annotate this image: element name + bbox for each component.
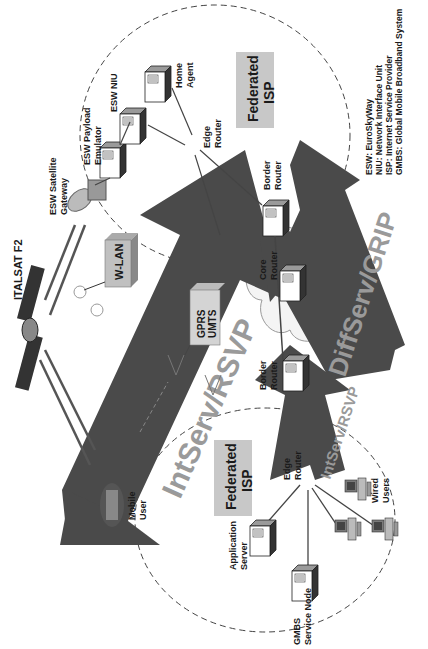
top-border-router-icon — [263, 200, 289, 236]
top-edge-router-label: Edge Router — [202, 119, 223, 148]
wlan-box: W-LAN — [105, 233, 138, 287]
svg-text:ESW: EuroSkyWay NIU: Net: ESW: EuroSkyWay NIU: Network Interface U… — [364, 8, 404, 175]
legend: ESW: EuroSkyWay NIU: Network Interface U… — [364, 8, 404, 175]
core-router-icon — [280, 265, 306, 301]
payload-emulator-label: ESW Payload Emulator — [82, 105, 103, 165]
wired-users-label: Wired Users — [370, 476, 391, 503]
home-agent-server-icon — [145, 66, 171, 102]
network-architecture-diagram: IntServ/RSVP DiffServ/GRIP IntServ/RSVP … — [0, 0, 428, 649]
wired-user-pc-icon — [335, 518, 361, 540]
application-server-label: Application Server — [228, 518, 249, 570]
esw-niu-label: ESW NIU — [109, 73, 119, 112]
satellite-links — [40, 225, 95, 465]
svg-text:GPRS UMTS: GPRS UMTS — [196, 307, 218, 338]
satellite-dish-icon — [63, 180, 106, 216]
satellite-label: ITALSAT F2 — [12, 239, 24, 300]
home-agent-label: Home Agent — [174, 60, 195, 88]
gprs-umts-box: GPRS UMTS — [190, 283, 225, 345]
wired-user-pc-icon — [372, 518, 398, 540]
bottom-border-router-label: Border Router — [258, 358, 279, 390]
bottom-isp-label-box: Federated ISP — [214, 439, 255, 516]
esw-niu-server-icon — [120, 108, 146, 144]
top-isp-label-box: Federated ISP — [236, 51, 277, 128]
mobile-user-car-icon — [100, 483, 124, 527]
payload-emulator-server-icon — [100, 142, 126, 178]
bottom-border-router-icon — [283, 355, 309, 391]
wired-user-pc-icon — [345, 478, 371, 500]
top-border-router-label: Border Router — [262, 158, 283, 190]
application-server-icon — [250, 520, 276, 556]
wlan-access-points — [74, 282, 105, 316]
satellite-gateway-label: ESW Satellite Gateway — [48, 155, 69, 215]
svg-text:W-LAN: W-LAN — [113, 244, 125, 280]
